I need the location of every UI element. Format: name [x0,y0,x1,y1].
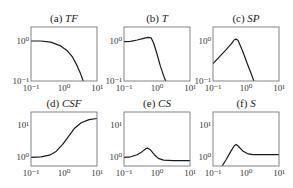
data-curve [222,144,279,166]
y-tick-label: 10¹ [199,120,211,130]
x-tick-label: 10⁰ [240,168,253,178]
x-tick-label: 10⁰ [240,83,253,93]
panel-b: (b) T10⁻¹10⁰10¹10⁰10⁻¹ [106,12,197,93]
panel-title: (b) T [146,12,169,25]
panel-d: (d) CSF10⁻¹10⁰10¹10¹10⁰ [16,97,103,178]
data-curve [213,39,254,81]
x-tick-label: 10¹ [91,83,103,93]
panel-title: (a) TF [50,12,78,25]
x-tick-label: 10¹ [91,168,103,178]
x-tick-label: 10⁻¹ [116,168,133,178]
panel-c: (c) SP10⁻¹10⁰10¹10⁰10⁻¹ [195,12,286,93]
panel-title: (c) SP [232,12,259,25]
y-tick-label: 10⁰ [16,36,29,46]
axes-frame [213,112,279,166]
panel-e: (e) CS10⁻¹10⁰10¹10¹10⁰ [109,97,196,178]
figure-grid: (a) TF10⁻¹10⁰10¹10⁰10⁻¹(b) T10⁻¹10⁰10¹10… [0,0,293,188]
x-tick-label: 10⁰ [151,168,164,178]
y-tick-label: 10⁰ [198,36,211,46]
x-tick-label: 10¹ [273,83,285,93]
x-tick-label: 10¹ [184,168,196,178]
axes-frame [31,27,97,81]
panel-title: (d) CSF [46,97,81,110]
y-tick-label: 10⁰ [198,152,211,162]
y-tick-label: 10¹ [17,120,29,130]
panel-f: (f) S10⁻¹10⁰10¹10¹10⁰ [198,97,285,178]
y-tick-label: 10⁰ [16,152,29,162]
data-curve [31,41,83,81]
x-tick-label: 10¹ [273,168,285,178]
panel-a: (a) TF10⁻¹10⁰10¹10⁰10⁻¹ [13,12,104,93]
x-tick-label: 10⁻¹ [205,168,222,178]
y-tick-label: 10¹ [110,120,122,130]
x-tick-label: 10⁰ [151,83,164,93]
x-tick-label: 10⁻¹ [23,168,40,178]
panel-title: (f) S [236,97,256,110]
y-tick-label: 10⁻¹ [106,76,123,86]
x-tick-label: 10⁰ [58,83,71,93]
y-tick-label: 10⁰ [109,152,122,162]
y-tick-label: 10⁰ [109,36,122,46]
y-tick-label: 10⁻¹ [195,76,212,86]
data-curve [124,37,166,81]
data-curve [124,148,190,160]
data-curve [31,119,97,158]
y-tick-label: 10⁻¹ [13,76,30,86]
panel-title: (e) CS [143,97,171,110]
x-tick-label: 10⁰ [58,168,71,178]
